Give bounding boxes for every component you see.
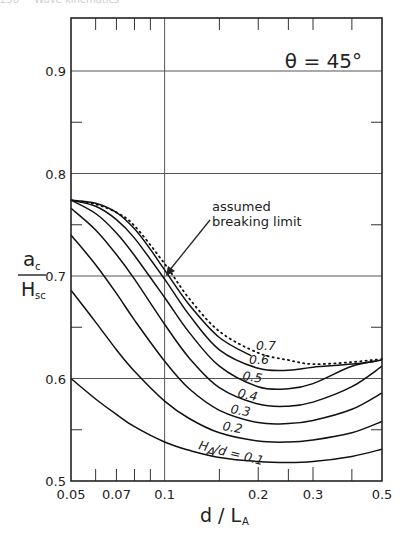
y-title-numerator: a — [23, 247, 35, 271]
plot-frame — [71, 18, 382, 481]
curve-label-0.2: 0.2 — [221, 418, 243, 436]
breaking-limit-annotation: assumed breaking limit — [166, 199, 302, 276]
y-tick-label: 0.7 — [45, 269, 66, 284]
annotation-line-2: breaking limit — [212, 214, 302, 229]
x-tick-label: 0.1 — [154, 487, 175, 502]
x-tick-label: 0.05 — [57, 487, 86, 502]
curve-label-0.4: 0.4 — [236, 385, 259, 404]
curve — [71, 235, 382, 424]
x-tick-label: 0.5 — [372, 487, 393, 502]
curve — [71, 208, 382, 406]
annotation-line-1: assumed — [212, 199, 271, 214]
x-tick-labels: 0.050.070.10.20.30.5 — [57, 487, 393, 502]
curve-label-0.7: 0.7 — [256, 338, 276, 353]
annotation-arrow — [169, 220, 210, 271]
curve-label-0.5: 0.5 — [242, 368, 264, 386]
axis-ticks — [71, 18, 382, 481]
y-tick-label: 0.6 — [45, 372, 66, 387]
y-title-denominator: H — [21, 278, 35, 300]
y-tick-label: 0.9 — [45, 64, 66, 79]
x-axis-title: d / L A — [200, 504, 249, 527]
y-title-denominator-sub: sc — [35, 290, 46, 301]
chart-title: θ = 45° — [285, 49, 362, 73]
svg-text:/d = 0.1: /d = 0.1 — [212, 441, 266, 468]
y-tick-labels: 0.50.60.70.80.9 — [45, 64, 66, 489]
grid-lines — [71, 18, 382, 481]
chart: 0.50.60.70.80.9 0.050.070.10.20.30.5 θ =… — [0, 0, 404, 536]
x-tick-label: 0.2 — [248, 487, 269, 502]
x-tick-label: 0.3 — [303, 487, 324, 502]
arrowhead-icon — [166, 266, 175, 276]
curve-label-0.1: H A /d = 0.1 — [196, 437, 265, 472]
curve-label-0.3: 0.3 — [229, 401, 251, 419]
x-title-sub: A — [242, 516, 249, 527]
y-tick-label: 0.8 — [45, 167, 66, 182]
x-tick-label: 0.07 — [102, 487, 131, 502]
y-axis-title: a c H sc — [18, 247, 46, 301]
curve-label-0.6: 0.6 — [249, 352, 269, 367]
x-title-main: d / L — [200, 504, 242, 526]
y-title-numerator-sub: c — [35, 261, 41, 272]
